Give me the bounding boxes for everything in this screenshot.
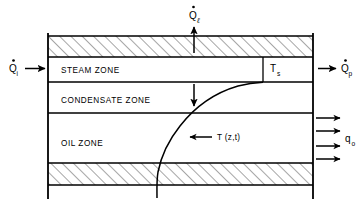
reservoir-zone-diagram: STEAM ZONE CONDENSATE ZONE OIL ZONE T s … — [0, 0, 364, 206]
q-injected-overdot-icon — [12, 59, 15, 62]
q-produced-overdot-icon — [344, 59, 347, 62]
temperature-profile-label: T (z,t) — [217, 133, 240, 142]
steam-temperature-symbol: T — [270, 63, 276, 74]
q-produced-subscript: p — [349, 70, 353, 78]
heat-injected-flow: Q i — [9, 59, 45, 76]
q-loss-subscript: ℓ — [197, 16, 201, 25]
q-injected-subscript: i — [17, 70, 19, 77]
steam-zone-label: STEAM ZONE — [61, 66, 120, 75]
temperature-profile-annotation: T (z,t) — [190, 133, 240, 142]
oil-rate-symbol: q — [345, 133, 351, 144]
overburden-hatch-band — [48, 36, 313, 57]
condensate-zone-label: CONDENSATE ZONE — [61, 96, 151, 105]
diagram-root: STEAM ZONE CONDENSATE ZONE OIL ZONE T s … — [0, 0, 364, 206]
oil-rate-flow: q o — [316, 118, 356, 159]
steam-temperature-subscript: s — [277, 70, 281, 77]
oil-zone-label: OIL ZONE — [61, 139, 103, 148]
steam-temperature-label: T s — [270, 63, 281, 77]
oil-rate-subscript: o — [352, 140, 356, 147]
underburden-hatch-band — [48, 163, 313, 185]
q-loss-overdot-icon — [192, 6, 195, 9]
heat-produced-flow: Q p — [318, 59, 353, 78]
